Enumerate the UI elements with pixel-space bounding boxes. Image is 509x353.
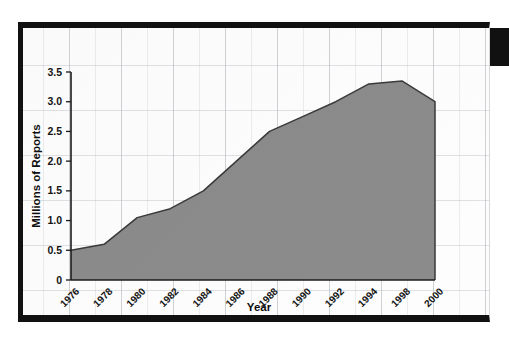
area-chart-plot: 00.51.01.52.02.53.03.5 19761978198019821… bbox=[23, 28, 489, 315]
y-tick-label: 0 bbox=[56, 274, 62, 286]
y-tick-label: 3.5 bbox=[47, 66, 62, 78]
x-tick-label: 1994 bbox=[356, 285, 380, 309]
y-tick-label: 1.5 bbox=[47, 184, 62, 196]
area-series-fill bbox=[71, 81, 435, 280]
x-axis-title: Year bbox=[247, 301, 272, 313]
scanned-page: 00.51.01.52.02.53.03.5 19761978198019821… bbox=[0, 0, 509, 353]
x-tick-label: 1992 bbox=[323, 285, 347, 309]
x-tick-label: 1990 bbox=[290, 285, 314, 309]
page-corner-tab bbox=[489, 28, 509, 66]
y-tick-label: 2.0 bbox=[47, 155, 62, 167]
y-tick-label: 3.0 bbox=[47, 95, 62, 107]
x-tick-label: 1984 bbox=[190, 285, 214, 309]
x-tick-label: 1998 bbox=[389, 285, 413, 309]
y-tick-label: 0.5 bbox=[47, 244, 62, 256]
y-axis-ticks: 00.51.01.52.02.53.03.5 bbox=[47, 66, 71, 286]
y-tick-label: 1.0 bbox=[47, 214, 62, 226]
x-tick-label: 1976 bbox=[58, 285, 82, 309]
x-tick-label: 1986 bbox=[223, 285, 247, 309]
x-tick-label: 1982 bbox=[157, 285, 181, 309]
y-tick-label: 2.5 bbox=[47, 125, 62, 137]
y-axis-title: Millions of Reports bbox=[30, 124, 42, 228]
x-tick-label: 2000 bbox=[422, 285, 446, 309]
x-tick-label: 1978 bbox=[91, 285, 115, 309]
x-tick-label: 1980 bbox=[124, 285, 148, 309]
chart-figure-frame: 00.51.01.52.02.53.03.5 19761978198019821… bbox=[18, 22, 490, 322]
